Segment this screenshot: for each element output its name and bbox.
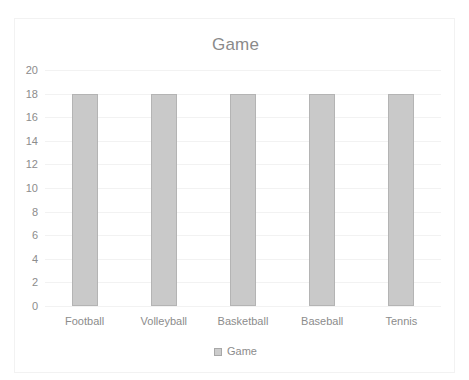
y-axis-tick-label: 2	[32, 277, 38, 288]
x-axis-tick-label: Volleyball	[141, 316, 187, 327]
gridline	[45, 70, 441, 71]
y-axis-tick-label: 16	[26, 112, 38, 123]
x-axis-tick-label: Baseball	[301, 316, 343, 327]
chart-frame: Game 20181614121086420 FootballVolleybal…	[14, 18, 455, 373]
legend-swatch-icon	[214, 348, 222, 356]
bar[interactable]	[388, 94, 414, 306]
y-axis-tick-label: 12	[26, 159, 38, 170]
x-axis-tick-label: Tennis	[385, 316, 417, 327]
chart-legend: Game	[15, 346, 456, 357]
y-axis-tick-label: 8	[32, 206, 38, 217]
y-axis-tick-label: 0	[32, 301, 38, 312]
bar[interactable]	[309, 94, 335, 306]
y-axis-tick-label: 10	[26, 183, 38, 194]
y-axis-tick-label: 20	[26, 65, 38, 76]
x-axis-tick-label: Football	[65, 316, 104, 327]
chart-title: Game	[15, 35, 456, 55]
bar[interactable]	[151, 94, 177, 306]
y-axis-tick-label: 6	[32, 230, 38, 241]
plot-area: 20181614121086420 FootballVolleyballBask…	[45, 70, 441, 306]
y-axis-tick-label: 14	[26, 135, 38, 146]
y-axis-tick-label: 18	[26, 88, 38, 99]
bar[interactable]	[72, 94, 98, 306]
gridline	[45, 306, 441, 307]
bar[interactable]	[230, 94, 256, 306]
x-axis-tick-label: Basketball	[218, 316, 269, 327]
legend-label: Game	[227, 346, 257, 357]
y-axis-tick-label: 4	[32, 253, 38, 264]
